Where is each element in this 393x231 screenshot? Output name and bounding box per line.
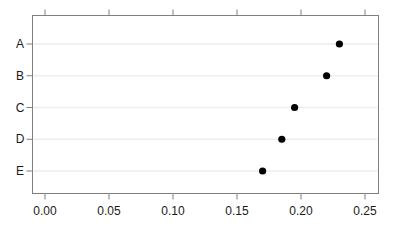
plot-box — [33, 16, 379, 194]
category-label: B — [16, 69, 24, 83]
y-axis: ABCDE — [16, 37, 33, 178]
x-tick-label: 0.05 — [97, 204, 121, 218]
category-label: E — [16, 164, 24, 178]
x-tick-label: 0.00 — [33, 204, 57, 218]
data-point — [336, 40, 343, 47]
data-point — [291, 104, 298, 111]
x-axis: 0.000.050.100.150.200.25 — [33, 10, 377, 218]
data-point — [278, 136, 285, 143]
data-point — [323, 72, 330, 79]
gridlines — [34, 44, 378, 171]
x-tick-label: 0.10 — [161, 204, 185, 218]
dot-plot-svg: 0.000.050.100.150.200.25ABCDE — [0, 0, 393, 231]
x-tick-label: 0.20 — [289, 204, 313, 218]
category-label: A — [16, 37, 24, 51]
data-point — [259, 167, 266, 174]
category-label: C — [16, 101, 25, 115]
dot-plot-figure: 0.000.050.100.150.200.25ABCDE — [0, 0, 393, 231]
category-label: D — [16, 132, 25, 146]
x-tick-label: 0.15 — [225, 204, 249, 218]
x-tick-label: 0.25 — [353, 204, 377, 218]
